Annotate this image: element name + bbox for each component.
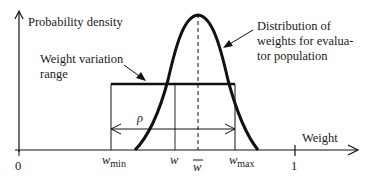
- distribution-curve: [135, 15, 258, 150]
- rho-label: ρ: [137, 111, 143, 126]
- range-annotation-line2: range: [40, 67, 68, 82]
- x-axis-label: Weight: [302, 131, 338, 146]
- range-annotation-arrowhead: [136, 72, 146, 81]
- distribution-annotation-line1: Distribution of: [257, 19, 331, 34]
- tick-origin-label: 0: [15, 159, 21, 174]
- tick-w-label: w: [170, 153, 178, 168]
- range-annotation-line1: Weight variation: [40, 52, 123, 67]
- tick-w-bar-label: w: [193, 160, 201, 175]
- tick-w-min-label: wmin: [102, 153, 126, 169]
- distribution-annotation-line3: tor population: [257, 49, 327, 64]
- distribution-annotation-arrowhead: [223, 40, 233, 48]
- distribution-annotation-arrow: [228, 30, 253, 45]
- tick-w-max-label: wmax: [229, 153, 255, 169]
- tick-one-label: 1: [291, 159, 297, 174]
- distribution-annotation-line2: weights for evalua-: [257, 34, 354, 49]
- y-axis-label: Probability density: [28, 15, 123, 30]
